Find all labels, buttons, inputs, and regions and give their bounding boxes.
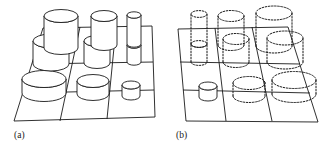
panel-a-cylinder-r2c1	[77, 75, 109, 101]
panel-a-cylinder-r0c2	[127, 12, 141, 47]
cylinder-top	[91, 11, 117, 22]
panel-a-cylinder-r2c2	[122, 81, 140, 100]
cylinder-top	[22, 71, 66, 88]
cylinder-top	[44, 10, 78, 23]
cylinder-top	[127, 12, 141, 18]
cylinder-body	[127, 15, 141, 47]
panel-a-cylinder-r0c1	[91, 11, 117, 51]
panel-a-label: (a)	[14, 130, 25, 141]
figure-canvas: (a)	[0, 0, 327, 145]
panel-a-cylinder-r0c0	[44, 10, 78, 55]
panel-b-label: (b)	[176, 130, 187, 141]
panel-a-cylinder-r2c0	[22, 71, 66, 102]
cylinder-top	[199, 82, 217, 90]
cylinder-top	[77, 75, 109, 88]
cylinder-top	[122, 81, 140, 89]
panel-b-cylinder-r2c0	[199, 82, 217, 101]
